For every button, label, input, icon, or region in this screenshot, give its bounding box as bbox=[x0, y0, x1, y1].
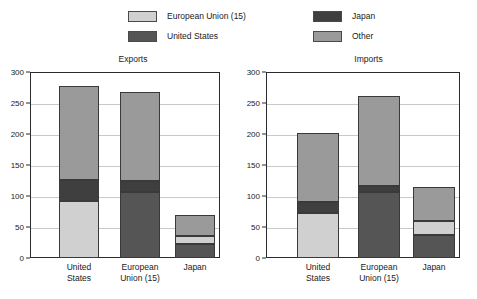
bar-segment-imports-united-states-japan[interactable] bbox=[297, 202, 339, 213]
y-tick-label-imports-200: 200 bbox=[247, 130, 260, 139]
bar-exports-european-union-15[interactable] bbox=[120, 92, 160, 258]
bar-segment-exports-european-union-15-other[interactable] bbox=[120, 92, 160, 181]
legend-swatch-european-union bbox=[128, 11, 157, 22]
legend-item-other: Other bbox=[313, 28, 375, 45]
y-tick-label-imports-250: 250 bbox=[247, 99, 260, 108]
y-tick-label-imports-300: 300 bbox=[247, 68, 260, 77]
bar-imports-united-states[interactable] bbox=[297, 133, 339, 258]
bar-segment-exports-european-union-15-united-states[interactable] bbox=[120, 192, 160, 258]
bar-group-exports bbox=[30, 72, 220, 258]
legend-item-european-union: European Union (15) bbox=[128, 8, 246, 25]
y-tick-label-imports-50: 50 bbox=[251, 223, 260, 232]
legend-swatch-japan bbox=[313, 11, 342, 22]
bar-segment-imports-european-union-15-other[interactable] bbox=[358, 96, 400, 186]
bar-segment-imports-japan-european-union[interactable] bbox=[413, 221, 455, 235]
y-tick-label-exports-250: 250 bbox=[11, 99, 24, 108]
bar-segment-exports-united-states-other[interactable] bbox=[59, 86, 99, 180]
bar-exports-japan[interactable] bbox=[175, 215, 215, 258]
x-axis-imports: UnitedStatesEuropeanUnion (15)Japan bbox=[266, 262, 460, 299]
legend-column-left: European Union (15) United States bbox=[128, 8, 246, 48]
bar-imports-japan[interactable] bbox=[413, 187, 455, 258]
bar-segment-exports-european-union-15-japan[interactable] bbox=[120, 181, 160, 192]
y-tick-label-exports-100: 100 bbox=[11, 192, 24, 201]
bar-segment-imports-european-union-15-japan[interactable] bbox=[358, 186, 400, 192]
bar-segment-imports-united-states-other[interactable] bbox=[297, 133, 339, 202]
y-axis-exports: 050100150200250300 bbox=[0, 72, 30, 258]
y-tick-label-exports-200: 200 bbox=[11, 130, 24, 139]
bar-segment-imports-european-union-15-united-states[interactable] bbox=[358, 192, 400, 258]
chart-legend: European Union (15) United States Japan … bbox=[0, 8, 477, 52]
bar-segment-imports-japan-united-states[interactable] bbox=[413, 235, 455, 258]
legend-item-united-states: United States bbox=[128, 28, 246, 45]
x-tick-label-imports-united-states: UnitedStates bbox=[283, 262, 353, 284]
y-axis-imports: 050100150200250300 bbox=[236, 72, 266, 258]
y-tick-label-exports-50: 50 bbox=[15, 223, 24, 232]
y-tick-label-exports-300: 300 bbox=[11, 68, 24, 77]
bar-segment-exports-japan-european-union[interactable] bbox=[175, 236, 215, 243]
bar-segment-imports-united-states-european-union[interactable] bbox=[297, 213, 339, 258]
y-tick-label-exports-0: 0 bbox=[20, 254, 24, 263]
x-tick-label-exports-japan: Japan bbox=[160, 262, 230, 273]
legend-label-european-union: European Union (15) bbox=[167, 11, 246, 22]
x-tick-label-exports-united-states: UnitedStates bbox=[44, 262, 114, 284]
bar-exports-united-states[interactable] bbox=[59, 86, 99, 258]
legend-label-japan: Japan bbox=[352, 11, 375, 22]
plot-area-imports bbox=[266, 72, 460, 258]
x-tick-label-imports-japan: Japan bbox=[399, 262, 469, 273]
legend-column-right: Japan Other bbox=[313, 8, 375, 48]
legend-label-other: Other bbox=[352, 31, 373, 42]
x-axis-exports: UnitedStatesEuropeanUnion (15)Japan bbox=[30, 262, 220, 299]
legend-item-japan: Japan bbox=[313, 8, 375, 25]
chart-title-imports: Imports bbox=[238, 54, 477, 64]
bar-segment-exports-japan-united-states[interactable] bbox=[175, 244, 215, 258]
bar-segment-exports-japan-other[interactable] bbox=[175, 215, 215, 236]
y-tick-label-imports-100: 100 bbox=[247, 192, 260, 201]
y-tick-label-imports-0: 0 bbox=[256, 254, 260, 263]
bar-group-imports bbox=[266, 72, 460, 258]
legend-label-united-states: United States bbox=[167, 31, 218, 42]
bar-segment-exports-united-states-european-union[interactable] bbox=[59, 201, 99, 258]
bar-imports-european-union-15[interactable] bbox=[358, 96, 400, 258]
y-tick-label-exports-150: 150 bbox=[11, 161, 24, 170]
bar-segment-exports-united-states-japan[interactable] bbox=[59, 180, 99, 201]
legend-swatch-united-states bbox=[128, 31, 157, 42]
y-tick-label-imports-150: 150 bbox=[247, 161, 260, 170]
legend-swatch-other bbox=[313, 31, 342, 42]
chart-title-exports: Exports bbox=[0, 54, 238, 64]
bar-segment-imports-japan-other[interactable] bbox=[413, 187, 455, 220]
plot-area-exports bbox=[30, 72, 220, 258]
